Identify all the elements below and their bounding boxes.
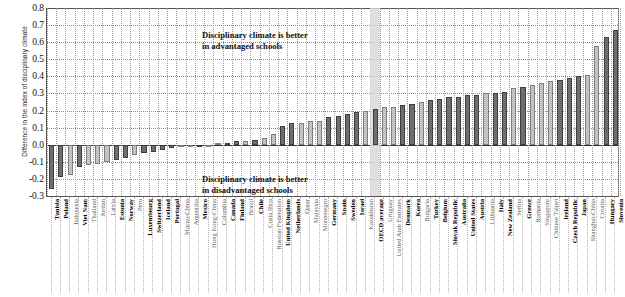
x-tick bbox=[439, 197, 440, 293]
bar bbox=[58, 145, 63, 177]
x-axis-label-slovenia: Slovenia bbox=[617, 199, 624, 223]
y-tick-label: 0.4 bbox=[32, 71, 44, 81]
x-tick bbox=[309, 197, 310, 293]
bar bbox=[234, 141, 239, 144]
bar bbox=[114, 145, 119, 160]
bar bbox=[169, 145, 174, 148]
x-tick bbox=[60, 197, 61, 293]
bar bbox=[188, 145, 193, 147]
bar bbox=[382, 107, 387, 145]
x-tick bbox=[430, 197, 431, 293]
x-tick bbox=[125, 197, 126, 293]
x-tick bbox=[393, 197, 394, 293]
bar bbox=[289, 123, 294, 145]
x-tick bbox=[346, 197, 347, 293]
x-axis-category-labels: TunisiaPolandIndonesiaViet NamThailandJo… bbox=[46, 197, 619, 297]
bar bbox=[178, 145, 183, 147]
y-tick-label: 0.7 bbox=[32, 20, 44, 30]
x-tick bbox=[485, 197, 486, 293]
bar bbox=[585, 75, 590, 145]
x-tick bbox=[420, 197, 421, 293]
x-tick bbox=[605, 197, 606, 293]
bar bbox=[225, 143, 230, 145]
x-tick bbox=[198, 197, 199, 293]
bar bbox=[86, 145, 91, 166]
y-tick-label: 0.0 bbox=[32, 140, 44, 150]
bar bbox=[446, 97, 451, 145]
annotation-disadvantaged: Disciplinary climate is better in disadv… bbox=[202, 174, 308, 195]
x-tick bbox=[88, 197, 89, 293]
x-tick bbox=[402, 197, 403, 293]
x-tick bbox=[374, 197, 375, 293]
x-tick bbox=[383, 197, 384, 293]
x-tick bbox=[134, 197, 135, 293]
y-tick-label: -0.2 bbox=[29, 174, 44, 184]
y-tick-label: 0.1 bbox=[32, 123, 44, 133]
y-tick-label: 0.5 bbox=[32, 54, 44, 64]
y-tick-label: 0.8 bbox=[32, 3, 44, 13]
bar bbox=[373, 109, 378, 145]
x-tick bbox=[51, 197, 52, 293]
y-tick-label: -0.1 bbox=[29, 157, 44, 167]
bar bbox=[49, 145, 54, 189]
x-tick bbox=[568, 197, 569, 293]
bar bbox=[539, 83, 544, 145]
x-tick bbox=[291, 197, 292, 293]
bar bbox=[77, 145, 82, 167]
y-tick-label: 0.2 bbox=[32, 106, 44, 116]
bar bbox=[151, 145, 156, 152]
bar bbox=[502, 92, 507, 145]
bar bbox=[252, 140, 257, 145]
x-tick bbox=[263, 197, 264, 293]
bar bbox=[141, 145, 146, 154]
x-tick bbox=[106, 197, 107, 293]
bar bbox=[391, 107, 396, 145]
bar bbox=[132, 145, 137, 155]
y-tick-label: 0.3 bbox=[32, 88, 44, 98]
x-tick bbox=[152, 197, 153, 293]
bar bbox=[576, 76, 581, 144]
bar bbox=[354, 112, 359, 144]
x-tick bbox=[494, 197, 495, 293]
x-tick bbox=[596, 197, 597, 293]
x-tick bbox=[587, 197, 588, 293]
y-axis-tick-labels: 0.80.70.60.50.40.30.20.10.0-0.1-0.2-0.3 bbox=[16, 0, 44, 200]
bar bbox=[493, 93, 498, 144]
chart-figure: Difference in the index of disciplinary … bbox=[0, 0, 625, 297]
bar bbox=[68, 145, 73, 176]
bar bbox=[317, 121, 322, 145]
x-tick bbox=[189, 197, 190, 293]
plot-area: Disciplinary climate is better in advant… bbox=[46, 8, 619, 196]
x-tick bbox=[208, 197, 209, 293]
bar bbox=[262, 138, 267, 145]
bar bbox=[613, 30, 618, 145]
x-tick bbox=[513, 197, 514, 293]
x-tick bbox=[115, 197, 116, 293]
bar bbox=[160, 145, 165, 150]
bar bbox=[400, 105, 405, 144]
x-tick bbox=[531, 197, 532, 293]
bar bbox=[363, 111, 368, 145]
bar bbox=[95, 145, 100, 164]
bar bbox=[511, 88, 516, 144]
x-tick bbox=[217, 197, 218, 293]
bar bbox=[483, 93, 488, 144]
bar bbox=[465, 95, 470, 145]
bar bbox=[123, 145, 128, 159]
bar bbox=[206, 145, 211, 147]
x-tick bbox=[337, 197, 338, 293]
x-tick bbox=[97, 197, 98, 293]
x-tick bbox=[411, 197, 412, 293]
x-tick bbox=[245, 197, 246, 293]
bar bbox=[243, 141, 248, 144]
y-tick-label: -0.3 bbox=[29, 191, 44, 201]
x-tick bbox=[550, 197, 551, 293]
bar bbox=[409, 104, 414, 145]
x-tick bbox=[300, 197, 301, 293]
x-tick bbox=[69, 197, 70, 293]
bar bbox=[520, 87, 525, 145]
x-tick bbox=[282, 197, 283, 293]
bar bbox=[345, 114, 350, 145]
x-tick bbox=[226, 197, 227, 293]
y-tick-label: 0.6 bbox=[32, 37, 44, 47]
